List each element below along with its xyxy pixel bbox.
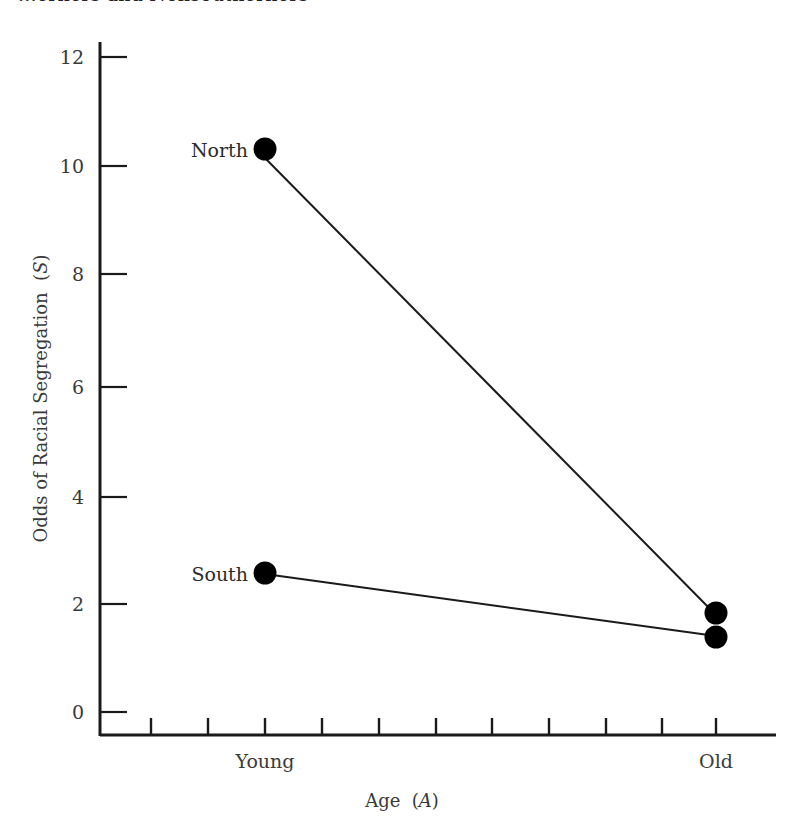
series-label-north: North — [88, 139, 248, 161]
data-point-north-young — [254, 138, 277, 161]
y-tick-label-0: 0 — [28, 701, 84, 723]
x-axis-title: Age (A) — [0, 790, 804, 811]
y-tick-label-12: 12 — [28, 46, 84, 68]
series-line-south — [265, 574, 716, 636]
x-axis-title-text: Age — [365, 790, 400, 811]
series-line-north — [265, 158, 716, 615]
x-axis-ticks — [151, 718, 716, 735]
data-point-north-old — [705, 602, 728, 625]
chart-figure: ...erners and Nonsoutherners — [0, 0, 804, 836]
x-axis-title-symbol: A — [419, 790, 432, 811]
y-axis-title-paren: (S) — [30, 254, 51, 286]
x-tick-label-young: Young — [195, 750, 335, 772]
data-point-south-old — [705, 626, 728, 649]
y-axis-title-text: Odds of Racial Segregation — [30, 292, 51, 542]
y-axis-title: Odds of Racial Segregation (S) — [30, 249, 51, 549]
y-tick-label-2: 2 — [28, 593, 84, 615]
x-axis-title-paren: (A) — [406, 790, 439, 811]
data-point-south-young — [254, 562, 277, 585]
series-label-south: South — [88, 563, 248, 585]
plot-area — [0, 0, 804, 836]
x-tick-label-old: Old — [646, 750, 786, 772]
y-tick-label-10: 10 — [28, 155, 84, 177]
y-axis-title-symbol: S — [30, 262, 51, 274]
